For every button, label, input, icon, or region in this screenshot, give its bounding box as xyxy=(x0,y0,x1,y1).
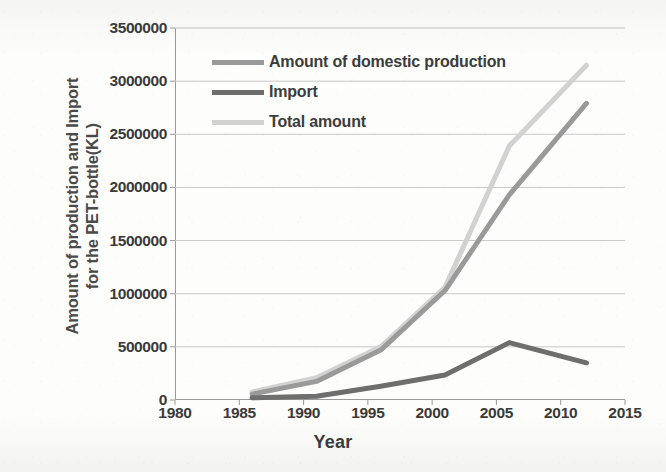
y-axis-tick-label: 1000000 xyxy=(47,285,167,303)
x-axis-tick-label: 2005 xyxy=(461,404,531,422)
x-axis-tick-label: 2010 xyxy=(526,404,596,422)
y-axis-tick-label: 2500000 xyxy=(47,125,167,143)
y-axis-tick-label: 2000000 xyxy=(47,178,167,196)
legend-color-swatch xyxy=(212,90,264,95)
legend-label: Total amount xyxy=(269,113,366,131)
x-axis-tick-label: 1980 xyxy=(140,404,210,422)
y-axis-tick-label: 3500000 xyxy=(47,19,167,37)
x-axis-tick-label: 2000 xyxy=(397,404,467,422)
legend-item: Total amount xyxy=(212,107,512,137)
legend-item: Import xyxy=(212,77,512,107)
x-axis-tick-label: 1990 xyxy=(269,404,339,422)
x-axis-tick-label: 2015 xyxy=(590,404,660,422)
chart-figure: Amount of production and Import for the … xyxy=(0,0,666,472)
legend-color-swatch xyxy=(212,120,264,125)
chart-legend: Amount of domestic productionImportTotal… xyxy=(212,47,512,137)
legend-label: Amount of domestic production xyxy=(269,53,506,71)
x-axis-tick-label: 1995 xyxy=(333,404,403,422)
y-axis-tick-label: 1500000 xyxy=(47,232,167,250)
data-series-line xyxy=(252,343,586,398)
y-axis-tick-label: 3000000 xyxy=(47,72,167,90)
x-axis-tick-label: 1985 xyxy=(204,404,274,422)
y-axis-tick-label: 500000 xyxy=(47,338,167,356)
legend-color-swatch xyxy=(212,60,264,65)
x-axis-title: Year xyxy=(0,432,666,453)
legend-item: Amount of domestic production xyxy=(212,47,512,77)
legend-label: Import xyxy=(269,83,318,101)
